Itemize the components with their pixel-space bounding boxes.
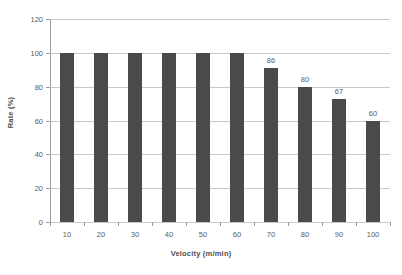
x-tick-label: 60 [220, 230, 254, 239]
bar-slot [220, 19, 254, 222]
x-tick-label: 20 [84, 230, 118, 239]
y-tick-label: 120 [30, 15, 43, 24]
bar[interactable] [332, 99, 346, 222]
plot-area: 020406080100120 86806760 102030405060708… [50, 19, 390, 222]
bar-slot [84, 19, 118, 222]
x-tick-mark [322, 222, 323, 226]
x-tick-mark [84, 222, 85, 226]
bar-slot: 60 [356, 19, 390, 222]
bar-slot [50, 19, 84, 222]
bar[interactable] [128, 53, 142, 222]
y-tick-label: 20 [35, 184, 43, 193]
bar-slot [118, 19, 152, 222]
bar[interactable] [60, 53, 74, 222]
x-tick-label: 40 [152, 230, 186, 239]
x-tick-mark [50, 222, 51, 226]
x-tick-label: 90 [322, 230, 356, 239]
x-tick-mark [118, 222, 119, 226]
bar[interactable] [298, 87, 312, 222]
x-tick-mark [288, 222, 289, 226]
x-tick-mark [356, 222, 357, 226]
y-tick-label: 60 [35, 116, 43, 125]
bar-slot [152, 19, 186, 222]
x-tick-label: 10 [50, 230, 84, 239]
x-tick-mark [220, 222, 221, 226]
bar[interactable] [264, 68, 278, 222]
bar-value-label: 86 [267, 56, 275, 65]
x-tick-label: 30 [118, 230, 152, 239]
x-tick-label: 100 [356, 230, 390, 239]
bar[interactable] [366, 121, 380, 223]
x-axis-title: Velocity (m/min) [0, 249, 402, 258]
bar-value-label: 67 [335, 87, 343, 96]
bar-value-label: 60 [369, 109, 377, 118]
y-tick-label: 0 [39, 218, 43, 227]
x-tick-mark [254, 222, 255, 226]
bar[interactable] [196, 53, 210, 222]
bar[interactable] [230, 53, 244, 222]
bar-slot: 67 [322, 19, 356, 222]
bar-chart: Rate (%) 020406080100120 86806760 102030… [0, 0, 402, 275]
x-tick-label: 80 [288, 230, 322, 239]
x-tick-mark [152, 222, 153, 226]
bar-slot: 80 [288, 19, 322, 222]
y-axis-title: Rate (%) [6, 78, 15, 148]
x-tick-mark [390, 222, 391, 226]
bar[interactable] [94, 53, 108, 222]
x-tick-label: 50 [186, 230, 220, 239]
bar[interactable] [162, 53, 176, 222]
y-tick-label: 40 [35, 150, 43, 159]
x-tick-mark [186, 222, 187, 226]
bar-value-label: 80 [301, 75, 309, 84]
x-tick-label: 70 [254, 230, 288, 239]
y-tick-label: 80 [35, 82, 43, 91]
bar-slot [186, 19, 220, 222]
y-tick-label: 100 [30, 48, 43, 57]
bar-slot: 86 [254, 19, 288, 222]
